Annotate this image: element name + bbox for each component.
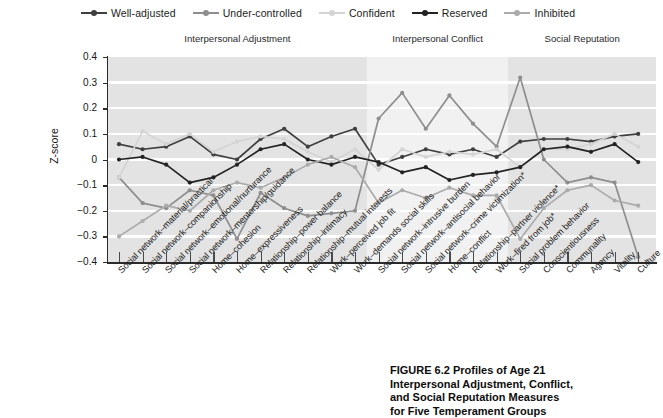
data-point: [589, 183, 593, 187]
data-point: [353, 209, 357, 213]
legend-marker-icon: [319, 9, 345, 18]
y-tick-label: −0.3: [63, 230, 97, 241]
data-point: [329, 163, 333, 167]
legend-item-confident[interactable]: Confident: [319, 7, 395, 19]
chart-legend: Well-adjustedUnder-controlledConfidentRe…: [0, 0, 656, 26]
figure-caption: FIGURE 6.2 Profiles of Age 21 Interperso…: [390, 364, 652, 418]
data-point: [518, 75, 522, 79]
data-point: [117, 175, 121, 179]
data-point: [141, 201, 145, 205]
y-tick-label: 0.1: [63, 128, 97, 139]
data-point: [424, 165, 428, 169]
y-axis-line: [107, 56, 109, 263]
data-point: [613, 180, 617, 184]
data-point: [141, 147, 145, 151]
data-point: [518, 165, 522, 169]
legend-marker-icon: [193, 9, 219, 18]
data-point: [306, 157, 310, 161]
data-point: [542, 157, 546, 161]
y-tick-label: −0.4: [63, 256, 97, 267]
data-point: [282, 206, 286, 210]
data-point: [235, 163, 239, 167]
data-point: [589, 175, 593, 179]
data-point: [188, 180, 192, 184]
data-point: [613, 142, 617, 146]
data-point: [447, 150, 451, 154]
data-point: [400, 188, 404, 192]
y-tick-label: 0.2: [63, 102, 97, 113]
y-tick-label: 0.4: [63, 51, 97, 62]
data-point: [471, 173, 475, 177]
data-point: [542, 137, 546, 141]
data-point: [613, 132, 617, 136]
data-point: [259, 134, 263, 138]
legend-item-well-adjusted[interactable]: Well-adjusted: [81, 7, 176, 19]
data-point: [377, 116, 381, 120]
data-point: [495, 147, 499, 151]
data-point: [400, 170, 404, 174]
x-tick: [638, 252, 639, 262]
legend-item-under-controlled[interactable]: Under-controlled: [193, 7, 302, 19]
data-point: [589, 150, 593, 154]
data-point: [117, 157, 121, 161]
x-tick: [119, 252, 120, 262]
data-point: [141, 155, 145, 159]
data-point: [471, 152, 475, 156]
data-point: [306, 163, 310, 167]
data-point: [424, 147, 428, 151]
data-point: [235, 180, 239, 184]
legend-item-inhibited[interactable]: Inhibited: [504, 7, 575, 19]
data-point: [141, 129, 145, 133]
data-point: [235, 157, 239, 161]
data-point: [565, 137, 569, 141]
data-point: [282, 142, 286, 146]
data-point: [424, 127, 428, 131]
data-point: [164, 163, 168, 167]
legend-label: Inhibited: [534, 7, 575, 19]
y-tick-label: −0.2: [63, 205, 97, 216]
caption-line-3: and Social Reputation Measures: [390, 391, 652, 405]
data-point: [329, 134, 333, 138]
data-point: [353, 155, 357, 159]
section-band-title: Social Reputation: [545, 33, 620, 44]
data-point: [565, 145, 569, 149]
data-point: [353, 165, 357, 169]
data-point: [447, 186, 451, 190]
legend-label: Confident: [349, 7, 395, 19]
data-point: [471, 122, 475, 126]
data-point: [188, 132, 192, 136]
data-point: [424, 155, 428, 159]
data-point: [400, 155, 404, 159]
data-point: [542, 147, 546, 151]
data-point: [636, 160, 640, 164]
data-point: [235, 139, 239, 143]
data-point: [400, 91, 404, 95]
legend-label: Well-adjusted: [111, 7, 176, 19]
data-point: [211, 175, 215, 179]
data-point: [565, 188, 569, 192]
data-point: [259, 186, 263, 190]
data-point: [589, 142, 593, 146]
caption-line-1: FIGURE 6.2 Profiles of Age 21: [390, 364, 652, 378]
section-band-title: Interpersonal Adjustment: [184, 33, 290, 44]
data-point: [164, 204, 168, 208]
data-point: [471, 147, 475, 151]
legend-item-reserved[interactable]: Reserved: [412, 7, 488, 19]
data-point: [164, 142, 168, 146]
legend-marker-icon: [504, 9, 530, 18]
data-point: [377, 160, 381, 164]
series-confident: [117, 129, 640, 179]
data-point: [117, 142, 121, 146]
data-point: [636, 132, 640, 136]
data-point: [117, 234, 121, 238]
caption-line-2: Interpersonal Adjustment, Conflict,: [390, 378, 652, 392]
data-point: [282, 127, 286, 131]
data-point: [353, 147, 357, 151]
legend-label: Reserved: [442, 7, 488, 19]
legend-label: Under-controlled: [223, 7, 302, 19]
section-band-title: Interpersonal Conflict: [392, 33, 483, 44]
data-point: [211, 150, 215, 154]
y-tick-label: 0.3: [63, 77, 97, 88]
data-point: [306, 145, 310, 149]
data-point: [636, 145, 640, 149]
